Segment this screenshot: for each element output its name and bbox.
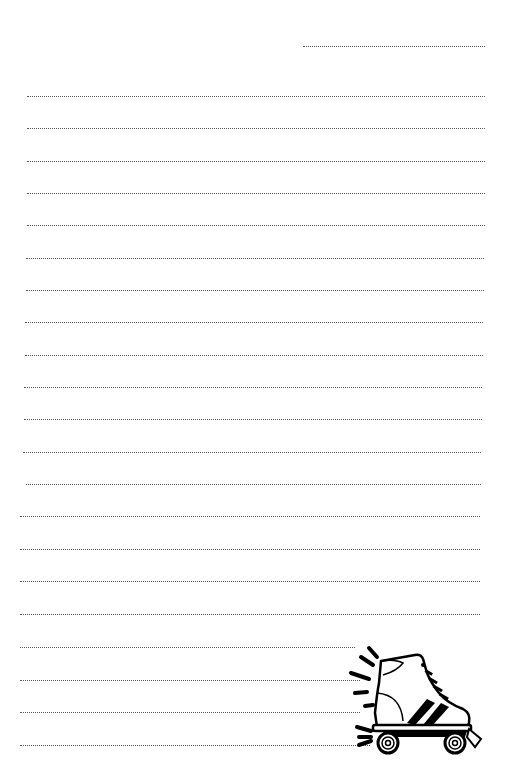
ruled-line bbox=[20, 549, 480, 550]
ruled-line bbox=[26, 290, 484, 291]
ruled-line bbox=[20, 614, 480, 615]
ruled-line bbox=[20, 581, 480, 582]
ruled-line bbox=[24, 419, 482, 420]
roller-skate-icon bbox=[343, 643, 483, 755]
ruled-line bbox=[20, 680, 360, 681]
ruled-line bbox=[20, 745, 370, 746]
ruled-line bbox=[26, 258, 484, 259]
ruled-line bbox=[27, 193, 485, 194]
ruled-line bbox=[27, 225, 485, 226]
ruled-line bbox=[20, 647, 355, 648]
ruled-line bbox=[27, 161, 485, 162]
ruled-line bbox=[25, 322, 483, 323]
header-line bbox=[303, 46, 485, 47]
ruled-line bbox=[20, 516, 480, 517]
ruled-line bbox=[27, 96, 485, 97]
ruled-line bbox=[24, 387, 482, 388]
ruled-line bbox=[27, 128, 485, 129]
ruled-line bbox=[23, 452, 481, 453]
ruled-line bbox=[26, 484, 481, 485]
ruled-line bbox=[25, 355, 483, 356]
ruled-line bbox=[20, 712, 360, 713]
